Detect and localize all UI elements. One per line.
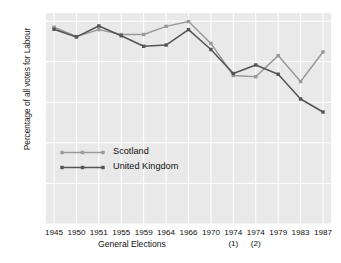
data-point — [142, 33, 145, 36]
legend-label: United Kingdom — [113, 161, 178, 171]
data-point — [164, 43, 167, 46]
x-tick-label: 1987 — [308, 228, 338, 237]
data-point — [254, 63, 257, 66]
data-point — [299, 97, 302, 100]
data-point — [164, 25, 167, 28]
data-point — [276, 54, 279, 57]
legend-item[interactable]: United Kingdom — [59, 160, 199, 175]
data-point — [142, 45, 145, 48]
x-tick-sublabel: (2) — [241, 239, 271, 248]
legend-swatch — [59, 145, 106, 158]
data-point — [75, 35, 78, 38]
y-axis-title: Percentage of all votes for Labour — [22, 0, 32, 184]
data-point — [232, 72, 235, 75]
data-point — [52, 28, 55, 31]
x-axis-title: General Elections — [98, 239, 166, 249]
data-point — [299, 80, 302, 83]
chart-legend: ScotlandUnited Kingdom — [59, 145, 199, 175]
data-point — [97, 24, 100, 27]
legend-item[interactable]: Scotland — [59, 145, 199, 160]
data-point — [321, 110, 324, 113]
data-point — [321, 50, 324, 53]
data-point — [276, 73, 279, 76]
data-point — [254, 75, 257, 78]
data-point — [187, 20, 190, 23]
legend-label: Scotland — [113, 146, 149, 156]
data-point — [97, 28, 100, 31]
series-lines — [46, 13, 331, 224]
series-line — [54, 26, 323, 112]
plot-area — [46, 13, 331, 224]
data-point — [187, 28, 190, 31]
data-point — [120, 34, 123, 37]
chart-figure: 01020304050 Percentage of all votes for … — [0, 0, 341, 263]
legend-swatch — [59, 160, 106, 173]
data-point — [209, 48, 212, 51]
data-point — [209, 42, 212, 45]
